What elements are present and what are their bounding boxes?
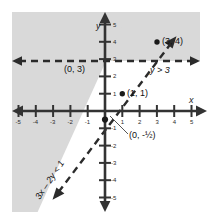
y-tick-label--5: -5 (111, 195, 116, 201)
annotation-point-0-3: (0, 3) (64, 65, 85, 74)
y-tick-label--3: -3 (111, 160, 116, 166)
x-tick-label-2: 2 (138, 119, 141, 125)
coordinate-plane (0, 0, 215, 216)
y-tick-label-5: 5 (113, 22, 116, 28)
x-tick-label-4: 4 (173, 119, 176, 125)
y-tick-label-4: 4 (113, 39, 116, 45)
data-point-3-4 (154, 39, 159, 44)
data-point-0-neg-half (102, 117, 108, 123)
y-tick-label--1: -1 (111, 125, 116, 131)
x-tick-label--4: -4 (33, 119, 38, 125)
graph-screenshot: -5 -4 -3 -2 -1 1 2 3 4 5 5 4 3 2 1 -1 -2… (0, 0, 215, 216)
x-tick-label-1: 1 (121, 119, 124, 125)
y-tick-label-2: 2 (113, 73, 116, 79)
y-tick-label-1: 1 (113, 91, 116, 97)
annotation-point-3-4: (3, 4) (162, 37, 183, 46)
y-tick-label-3: 3 (113, 56, 116, 62)
x-tick-label-3: 3 (155, 119, 158, 125)
x-tick-label-5: 5 (190, 119, 193, 125)
annotation-inequality-y: y > 3 (150, 66, 170, 75)
x-tick-label--1: -1 (85, 119, 90, 125)
x-axis-label: x (189, 96, 194, 105)
arrow-x-positive (196, 106, 207, 117)
y-tick-label--4: -4 (111, 177, 116, 183)
annotation-point-0-neg-half: (0, -½) (129, 131, 156, 140)
annotation-point-1-1: (1, 1) (127, 89, 148, 98)
y-axis-label: y (96, 22, 101, 31)
y-tick-label--2: -2 (111, 143, 116, 149)
x-tick-label--5: -5 (16, 119, 21, 125)
data-point-1-1 (120, 91, 125, 96)
x-tick-label--2: -2 (67, 119, 72, 125)
x-tick-label--3: -3 (50, 119, 55, 125)
